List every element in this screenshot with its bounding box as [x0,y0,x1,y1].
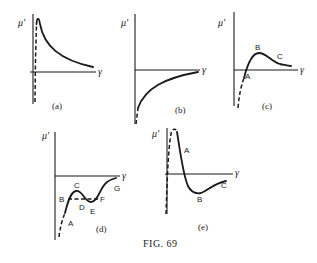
dashed-branch [59,213,65,237]
point-label-a: A [184,146,190,155]
curve [244,53,291,78]
point-label-g: G [114,184,120,193]
panel-c: μ' γ A B C (c) [217,12,305,111]
figure-69: μ' γ (a) μ' γ (b) μ' γ A B C (c) μ' γ A … [0,0,317,263]
x-axis-label: γ [122,170,127,181]
y-axis-label: μ' [217,17,226,28]
point-label-b: B [197,195,202,204]
y-axis-label: μ' [41,130,50,141]
point-label-c: C [74,181,80,190]
dashed-branch [136,108,138,124]
x-axis-label: γ [98,66,103,77]
curve [138,72,198,108]
panel-label: (c) [262,101,272,111]
point-label-c: C [221,181,227,190]
point-label-c: C [277,52,283,61]
curve [177,132,226,193]
y-axis-label: μ' [151,128,160,139]
point-label-e: E [90,207,95,216]
y-axis-label: μ' [120,17,129,28]
curve [37,19,94,67]
point-label-b: B [255,43,260,52]
dashed-branch [166,129,177,214]
panel-label: (a) [52,101,62,111]
panel-a: μ' γ (a) [17,14,103,111]
x-axis-label: γ [202,64,207,75]
figure-caption: FIG. 69 [143,238,178,249]
y-axis-label: μ' [17,17,26,28]
dashed-branch [35,24,37,102]
panel-label: (b) [175,105,186,115]
x-axis-label: γ [235,167,240,178]
panel-b: μ' γ (b) [120,14,207,124]
dashed-branch [238,78,244,108]
panel-label: (e) [198,222,208,232]
x-axis-label: γ [300,64,305,75]
panel-e: μ' γ A B C (e) [151,128,240,232]
point-label-b: B [59,195,64,204]
panel-label: (d) [96,224,107,234]
panel-d: μ' γ A B C D E F G (d) [41,130,127,240]
point-label-a: A [68,219,74,228]
point-label-d: D [79,203,85,212]
point-label-f: F [100,195,105,204]
point-label-a: A [245,72,251,81]
